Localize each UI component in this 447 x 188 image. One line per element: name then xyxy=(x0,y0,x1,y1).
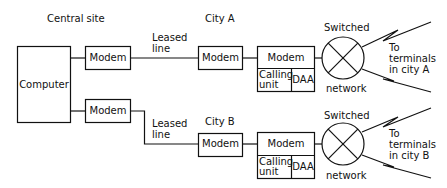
terminals-a-label-2: terminals xyxy=(389,54,436,64)
central-modem-b-label: Modem xyxy=(85,106,131,116)
city-a-modem-label: Modem xyxy=(198,53,243,63)
switched-network-a-label-bottom: network xyxy=(326,84,367,94)
terminals-b-label-2: terminals xyxy=(389,140,436,150)
central-site-label: Central site xyxy=(47,14,105,24)
city-a-dial-modem-label: Modem xyxy=(257,53,315,63)
terminals-b-label-1: To xyxy=(389,129,400,139)
city-b-label: City B xyxy=(205,117,235,127)
city-a-calling-unit-label-2: unit xyxy=(258,80,292,90)
switched-network-b-label-bottom: network xyxy=(326,171,367,181)
city-b-daa-label: DAA xyxy=(291,162,315,172)
city-a-label: City A xyxy=(205,14,235,24)
city-b-modem-label: Modem xyxy=(198,139,243,149)
central-modem-a-label: Modem xyxy=(85,53,131,63)
city-b-calling-unit-label-2: unit xyxy=(258,167,292,177)
leased-line-a-label-2: line xyxy=(152,44,170,54)
leased-line-b-label-1: Leased xyxy=(152,119,187,129)
leased-line-a-label-1: Leased xyxy=(152,33,187,43)
terminals-a-label-1: To xyxy=(389,43,400,53)
diagram-canvas xyxy=(0,0,447,188)
terminals-a-label-3: in city A xyxy=(389,65,429,75)
city-a-daa-label: DAA xyxy=(291,75,315,85)
city-b-dial-modem-label: Modem xyxy=(257,139,315,149)
switched-network-b-label-top: Switched xyxy=(324,111,370,121)
switched-network-a-label-top: Switched xyxy=(324,23,370,33)
computer-label: Computer xyxy=(17,80,71,90)
leased-line-b-label-2: line xyxy=(152,130,170,140)
terminals-b-label-3: in city B xyxy=(389,151,429,161)
